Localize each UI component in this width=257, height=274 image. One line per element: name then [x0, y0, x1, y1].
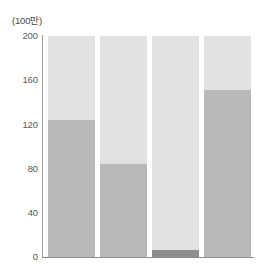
x-axis-baseline — [42, 257, 254, 258]
bar-2-segment-upper-light — [100, 36, 147, 164]
bar-1-segment-upper-light — [48, 36, 95, 120]
y-tick-label-120: 120 — [22, 119, 38, 130]
y-tick-label-40: 40 — [28, 207, 38, 218]
y-tick-label-80: 80 — [28, 163, 38, 174]
bar-category-3 — [152, 36, 199, 257]
bar-4-segment-lower-mid — [204, 90, 251, 257]
bar-category-4 — [204, 36, 251, 257]
stacked-bar-chart: (100만) 200 160 120 80 40 0 — [0, 0, 257, 274]
y-tick-label-200: 200 — [22, 30, 38, 41]
bar-1-segment-lower-mid — [48, 120, 95, 257]
bar-4-segment-upper-light — [204, 36, 251, 90]
bar-category-1 — [48, 36, 95, 257]
bars-layer — [43, 36, 255, 257]
y-axis-tick-label-group: 200 160 120 80 40 0 — [0, 0, 38, 274]
bar-3-segment-upper-light — [152, 36, 199, 250]
y-tick-label-0: 0 — [33, 251, 38, 262]
bar-3-segment-lower-dark — [152, 250, 199, 257]
bar-category-2 — [100, 36, 147, 257]
y-tick-label-160: 160 — [22, 74, 38, 85]
bar-2-segment-lower-mid — [100, 164, 147, 257]
